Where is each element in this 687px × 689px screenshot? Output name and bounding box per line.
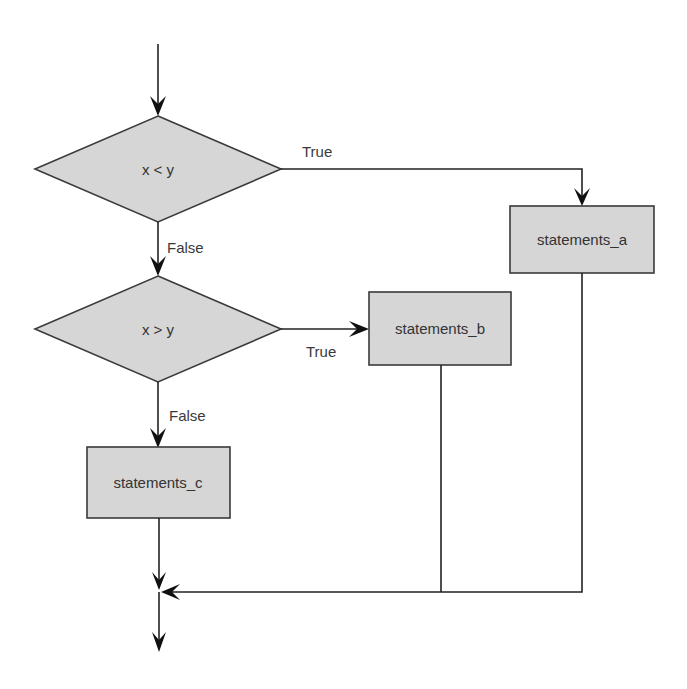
edge-label-true-2: True bbox=[306, 343, 336, 360]
edge-label-false-1: False bbox=[167, 239, 204, 256]
edge-d2-true: True bbox=[281, 321, 369, 360]
edge-d1-false: False bbox=[150, 222, 204, 276]
decision-2-label: x > y bbox=[142, 321, 175, 338]
statements-b-label: statements_b bbox=[395, 320, 485, 337]
node-statements-a: statements_a bbox=[510, 206, 654, 273]
edge-label-false-2: False bbox=[169, 407, 206, 424]
node-statements-c: statements_c bbox=[87, 447, 230, 518]
edge-label-true-1: True bbox=[302, 143, 332, 160]
decision-x-less-than-y: x < y bbox=[35, 116, 281, 222]
edge-d1-true: True bbox=[281, 143, 590, 206]
flowchart-diagram: x < y True statements_a False x > y True… bbox=[0, 0, 687, 689]
node-statements-b: statements_b bbox=[369, 292, 511, 365]
edge-d2-false: False bbox=[150, 382, 206, 448]
statements-c-label: statements_c bbox=[113, 474, 203, 491]
statements-a-label: statements_a bbox=[537, 231, 628, 248]
decision-x-greater-than-y: x > y bbox=[35, 276, 281, 382]
decision-1-label: x < y bbox=[142, 161, 175, 178]
entry-edge bbox=[150, 44, 166, 116]
